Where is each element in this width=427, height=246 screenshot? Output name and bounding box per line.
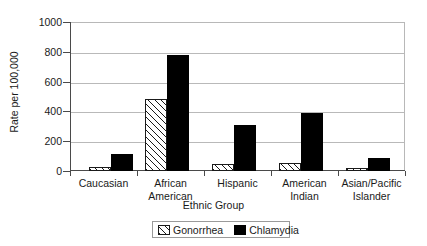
- bar-gonorrhea-caucasian: [89, 167, 111, 172]
- x-category-line: American: [271, 177, 338, 190]
- x-tick-1: [137, 171, 138, 176]
- gridline-600: [71, 83, 404, 84]
- x-tick-4: [338, 171, 339, 176]
- chart-legend: Gonorrhea Chlamydia: [152, 221, 290, 238]
- y-axis-line: [70, 22, 71, 171]
- x-category-line: Caucasian: [70, 177, 137, 190]
- x-tick-0: [70, 171, 71, 176]
- legend-label-gonorrhea: Gonorrhea: [173, 224, 223, 236]
- bar-chlamydia-african-american: [167, 55, 189, 171]
- x-tick-2: [204, 171, 205, 176]
- legend-item-chlamydia: Chlamydia: [234, 224, 299, 236]
- y-tick-800: [63, 52, 70, 53]
- x-tick-3: [271, 171, 272, 176]
- y-tick-400: [63, 111, 70, 112]
- x-tick-5: [405, 171, 406, 176]
- y-tick-label-200: 200: [44, 136, 62, 146]
- solid-black-swatch-icon: [234, 225, 246, 235]
- y-tick-label-0: 0: [56, 166, 62, 176]
- y-tick-200: [63, 141, 70, 142]
- hatched-swatch-icon: [158, 225, 170, 235]
- x-category-line: Hispanic: [204, 177, 271, 190]
- bar-chlamydia-american-indian: [301, 113, 323, 171]
- x-category-line: Asian/Pacific: [336, 177, 407, 190]
- x-category-label-hispanic: Hispanic: [204, 177, 271, 190]
- y-tick-600: [63, 82, 70, 83]
- bar-chlamydia-caucasian: [111, 154, 133, 171]
- gridline-800: [71, 53, 404, 54]
- y-tick-label-1000: 1000: [39, 17, 62, 27]
- y-axis-title: Rate per 100,000: [8, 32, 20, 152]
- bar-chart: 1000 800 600 400 200 0 Rate per 100,000 …: [0, 0, 427, 246]
- bar-gonorrhea-asian-pacific-islander: [346, 168, 368, 171]
- legend-item-gonorrhea: Gonorrhea: [158, 224, 223, 236]
- bar-chlamydia-asian-pacific-islander: [368, 158, 390, 171]
- bar-gonorrhea-hispanic: [212, 164, 234, 172]
- legend-label-chlamydia: Chlamydia: [249, 224, 299, 236]
- gridline-400: [71, 112, 404, 113]
- y-tick-1000: [63, 22, 70, 23]
- y-tick-label-800: 800: [44, 47, 62, 57]
- y-tick-0: [63, 171, 70, 172]
- x-category-label-caucasian: Caucasian: [70, 177, 137, 190]
- x-category-line: African: [137, 177, 204, 190]
- bar-gonorrhea-american-indian: [279, 163, 301, 171]
- bar-chlamydia-hispanic: [234, 125, 256, 171]
- bar-gonorrhea-african-american: [145, 99, 167, 171]
- y-tick-label-600: 600: [44, 77, 62, 87]
- x-axis-title: Ethnic Group: [0, 199, 427, 211]
- y-tick-label-400: 400: [44, 106, 62, 116]
